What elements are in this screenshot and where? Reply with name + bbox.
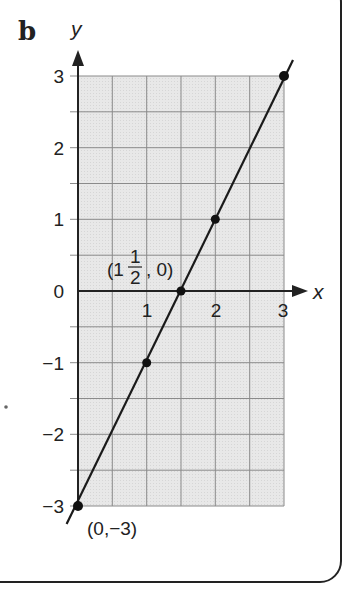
- x-intercept-numerator: 1: [130, 246, 141, 267]
- graph: y x 3 2 1 0 −1 −2 −3 1 2 3 (1 1 2 , 0) (…: [0, 0, 347, 590]
- point-2-1: [211, 215, 220, 224]
- y-axis-label: y: [69, 17, 83, 40]
- x-tick-1: 1: [142, 300, 153, 321]
- point-1-minus-1: [142, 358, 151, 367]
- y-tick-0: 0: [53, 281, 64, 302]
- y-tick-2: 2: [53, 138, 64, 159]
- x-tick-2: 2: [211, 300, 222, 321]
- y-tick-labels: 3 2 1 0 −1 −2 −3: [42, 66, 64, 517]
- y-tick-minus-1: −1: [42, 353, 64, 374]
- y-axis-arrow-icon: [72, 50, 84, 66]
- x-axis-label: x: [312, 280, 325, 303]
- x-axis-arrow-icon: [292, 285, 308, 297]
- x-tick-3: 3: [278, 300, 289, 321]
- y-tick-3: 3: [53, 66, 64, 87]
- x-intercept-close: , 0): [146, 259, 173, 280]
- stray-dot: [4, 405, 8, 409]
- point-0-minus-3: [73, 501, 83, 511]
- y-intercept-annotation: (0,−3): [87, 518, 137, 539]
- y-tick-minus-2: −2: [42, 424, 64, 445]
- point-1.5-0: [177, 287, 186, 296]
- point-3-3: [279, 71, 289, 81]
- y-tick-1: 1: [53, 209, 64, 230]
- x-intercept-denominator: 2: [130, 267, 141, 288]
- y-tick-minus-3: −3: [42, 496, 64, 517]
- x-intercept-open: (1: [107, 259, 124, 280]
